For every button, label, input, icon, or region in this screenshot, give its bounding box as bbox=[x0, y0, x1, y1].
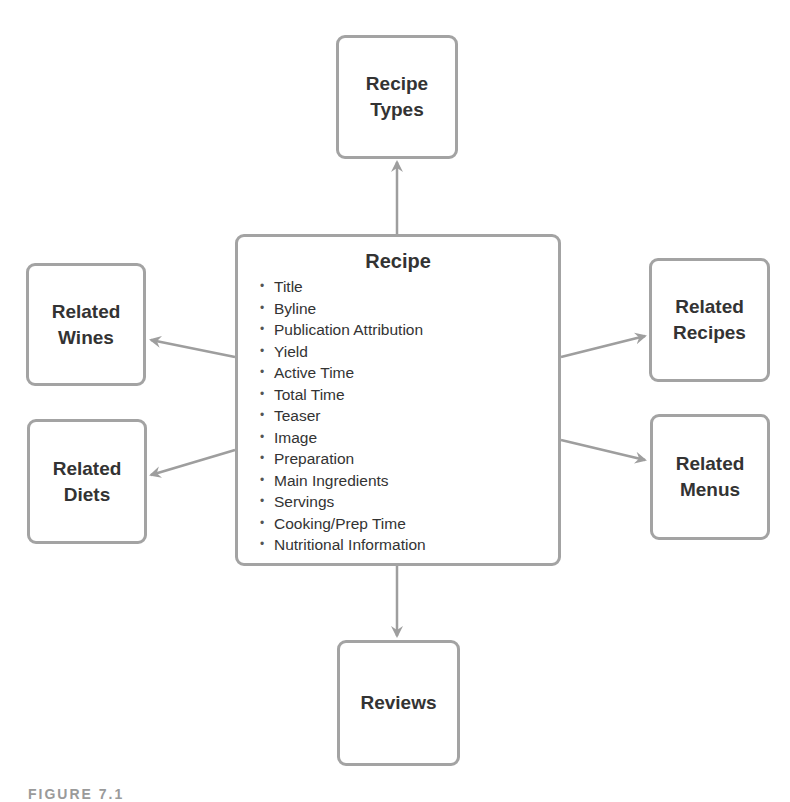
field-label: Teaser bbox=[274, 407, 321, 424]
field-label: Publication Attribution bbox=[274, 321, 423, 338]
field-item: •Main Ingredients bbox=[260, 470, 426, 492]
field-label: Total Time bbox=[274, 386, 345, 403]
bullet-icon: • bbox=[260, 298, 264, 320]
arrow-to-related-diets bbox=[151, 450, 235, 475]
bullet-icon: • bbox=[260, 534, 264, 556]
node-recipe-types: Recipe Types bbox=[336, 35, 458, 159]
bullet-icon: • bbox=[260, 491, 264, 513]
field-item: •Nutritional Information bbox=[260, 534, 426, 556]
node-related-menus: Related Menus bbox=[650, 414, 770, 540]
field-label: Byline bbox=[274, 300, 316, 317]
node-label: Reviews bbox=[360, 690, 436, 716]
bullet-icon: • bbox=[260, 384, 264, 406]
figure-caption: FIGURE 7.1 bbox=[28, 786, 124, 802]
bullet-icon: • bbox=[260, 319, 264, 341]
arrow-to-related-wines bbox=[151, 340, 235, 357]
field-item: •Image bbox=[260, 427, 426, 449]
recipe-field-list: •Title •Byline •Publication Attribution … bbox=[260, 276, 426, 556]
field-item: •Title bbox=[260, 276, 426, 298]
field-label: Active Time bbox=[274, 364, 354, 381]
node-reviews: Reviews bbox=[337, 640, 460, 766]
field-label: Preparation bbox=[274, 450, 354, 467]
node-related-recipes: Related Recipes bbox=[649, 258, 770, 382]
field-item: •Publication Attribution bbox=[260, 319, 426, 341]
bullet-icon: • bbox=[260, 470, 264, 492]
bullet-icon: • bbox=[260, 513, 264, 535]
field-label: Nutritional Information bbox=[274, 536, 426, 553]
field-item: •Servings bbox=[260, 491, 426, 513]
field-label: Yield bbox=[274, 343, 308, 360]
node-label: Related Diets bbox=[53, 456, 122, 508]
field-label: Cooking/Prep Time bbox=[274, 515, 406, 532]
field-item: •Preparation bbox=[260, 448, 426, 470]
field-label: Main Ingredients bbox=[274, 472, 389, 489]
node-related-diets: Related Diets bbox=[27, 419, 147, 544]
bullet-icon: • bbox=[260, 362, 264, 384]
node-label: Related Recipes bbox=[673, 294, 746, 346]
node-label: Related Wines bbox=[52, 299, 121, 351]
field-item: •Active Time bbox=[260, 362, 426, 384]
field-item: •Cooking/Prep Time bbox=[260, 513, 426, 535]
field-label: Image bbox=[274, 429, 317, 446]
field-label: Title bbox=[274, 278, 303, 295]
bullet-icon: • bbox=[260, 276, 264, 298]
recipe-title: Recipe bbox=[238, 249, 558, 273]
bullet-icon: • bbox=[260, 405, 264, 427]
field-item: •Total Time bbox=[260, 384, 426, 406]
field-label: Servings bbox=[274, 493, 334, 510]
bullet-icon: • bbox=[260, 427, 264, 449]
field-item: •Byline bbox=[260, 298, 426, 320]
arrow-to-related-recipes bbox=[561, 336, 645, 357]
field-item: •Yield bbox=[260, 341, 426, 363]
node-label: Related Menus bbox=[676, 451, 745, 503]
node-related-wines: Related Wines bbox=[26, 263, 146, 386]
bullet-icon: • bbox=[260, 448, 264, 470]
node-recipe: Recipe •Title •Byline •Publication Attri… bbox=[235, 234, 561, 566]
node-label: Recipe Types bbox=[366, 71, 428, 123]
field-item: •Teaser bbox=[260, 405, 426, 427]
bullet-icon: • bbox=[260, 341, 264, 363]
arrow-to-related-menus bbox=[561, 440, 645, 460]
